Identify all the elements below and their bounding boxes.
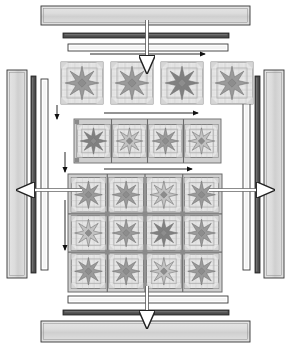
- inner-border-white-left: [41, 79, 48, 270]
- star-block-ctr-1-2: [147, 216, 182, 251]
- inner-border-white-right: [243, 79, 250, 270]
- star-block-ctr-0-3: [184, 177, 219, 212]
- sashed-block-row: [74, 119, 221, 163]
- star-block-ctr-1-3: [184, 216, 219, 251]
- outer-border-right: [264, 70, 284, 278]
- cornerstone: [180, 250, 185, 255]
- inner-border-dark-right: [255, 76, 260, 273]
- outer-border-left: [7, 70, 27, 278]
- star-block-mid-2: [149, 125, 182, 158]
- cornerstone: [75, 158, 80, 163]
- diagram-canvas: [0, 0, 291, 348]
- inner-border-dark-left: [31, 76, 36, 273]
- quilt-assembly-diagram: [0, 0, 291, 348]
- star-block-ctr-2-2: [147, 254, 182, 289]
- star-block-ctr-1-1: [109, 216, 143, 251]
- star-block-mid-0: [77, 125, 110, 158]
- cornerstone: [143, 211, 148, 216]
- cornerstone: [105, 211, 110, 216]
- star-block-mid-3: [185, 125, 218, 158]
- star-block-ctr-0-0: [71, 177, 106, 212]
- cornerstone: [180, 211, 185, 216]
- cornerstone: [105, 250, 110, 255]
- cornerstone: [75, 120, 80, 125]
- star-block-ctr-0-1: [109, 177, 143, 212]
- star-block-ctr-2-3: [184, 254, 219, 289]
- cornerstone: [143, 250, 148, 255]
- star-block-ctr-0-2: [147, 177, 182, 212]
- star-block-top-2: [161, 62, 203, 104]
- star-block-ctr-2-1: [109, 254, 143, 289]
- quilt-center: [68, 174, 222, 292]
- star-block-ctr-2-0: [71, 254, 106, 289]
- star-block-ctr-1-0: [71, 216, 106, 251]
- star-block-mid-1: [113, 125, 146, 158]
- star-block-top-0: [61, 62, 103, 104]
- star-block-top-3: [211, 62, 253, 104]
